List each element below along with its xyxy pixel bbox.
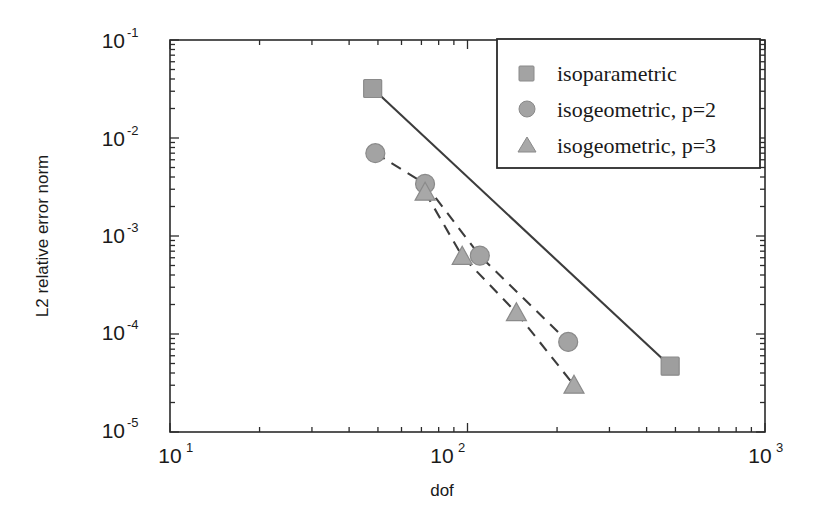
x-tick-label-2: 10 xyxy=(748,444,771,467)
y-tick-label-4: 10 xyxy=(102,419,125,442)
data-point-circle xyxy=(559,332,578,351)
y-tick-labels: 10 -1 10 -2 10 -3 10 -4 10 -5 xyxy=(102,25,139,442)
legend-label-2: isogeometric, p=3 xyxy=(557,133,716,158)
y-tick-label-3: 10 xyxy=(102,321,125,344)
y-tick-exponent-2: -3 xyxy=(127,220,139,235)
data-point-square xyxy=(661,357,679,375)
y-tick-label-2: 10 xyxy=(102,224,125,247)
data-point-circle xyxy=(470,246,489,265)
y-tick-label-1: 10 xyxy=(102,127,125,150)
y-tick-exponent-0: -1 xyxy=(127,25,139,40)
y-tick-label-0: 10 xyxy=(102,29,125,52)
x-tick-exponent-1: 2 xyxy=(458,440,465,455)
y-tick-exponent-4: -5 xyxy=(127,415,139,430)
figure-container: 10 1 10 2 10 3 10 -1 10 -2 10 -3 10 -4 1… xyxy=(0,0,822,525)
circle-marker-icon xyxy=(519,101,535,117)
x-tick-exponent-0: 1 xyxy=(186,440,193,455)
convergence-plot: 10 1 10 2 10 3 10 -1 10 -2 10 -3 10 -4 1… xyxy=(0,0,822,525)
legend: isoparametric isogeometric, p=2 isogeome… xyxy=(497,39,760,168)
y-tick-exponent-3: -4 xyxy=(127,317,139,332)
data-point-circle xyxy=(366,144,385,163)
x-tick-exponent-2: 3 xyxy=(776,440,783,455)
y-tick-exponent-1: -2 xyxy=(127,123,139,138)
x-axis-label: dof xyxy=(430,481,454,500)
x-tick-label-1: 10 xyxy=(430,444,453,467)
square-marker-icon xyxy=(519,66,534,81)
y-axis-label: L2 relative error norm xyxy=(33,155,52,318)
legend-label-1: isogeometric, p=2 xyxy=(557,97,716,122)
data-point-square xyxy=(364,79,382,97)
x-tick-label-0: 10 xyxy=(158,444,181,467)
legend-label-0: isoparametric xyxy=(557,61,677,86)
x-tick-labels: 10 1 10 2 10 3 xyxy=(158,440,783,467)
